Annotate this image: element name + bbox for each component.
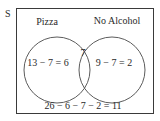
- pizza-only-value: 13 − 7 = 6: [27, 57, 68, 68]
- pizza-label: Pizza: [36, 16, 58, 27]
- venn-diagram: S Pizza No Alcohol 13 − 7 = 6 7 9 − 7 = …: [0, 0, 160, 121]
- universe-label: S: [5, 8, 11, 19]
- no-alcohol-only-value: 9 − 7 = 2: [96, 57, 132, 68]
- no-alcohol-circle: [79, 37, 145, 103]
- no-alcohol-label: No Alcohol: [94, 15, 141, 26]
- outside-value: 26 − 6 − 7 − 2 = 11: [44, 100, 121, 111]
- intersection-value: 7: [81, 47, 86, 58]
